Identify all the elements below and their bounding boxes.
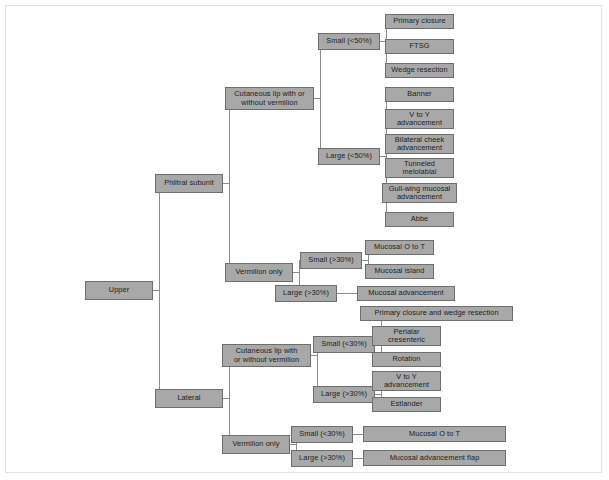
node-mucosal-o-to-t-1: Mucosal O to T [365,240,434,255]
node-bilat-cheek: Bilateral cheek advancement [385,134,454,154]
node-mucosal-adv: Mucosal advancement [357,286,455,301]
node-tunneled-melo: Tunneled melolabial [385,158,454,178]
diagram-canvas: UpperPhiltral subunitLateralCutaneous li… [0,0,609,480]
node-rotation: Rotation [372,352,441,367]
node-estlander: Estlander [372,397,441,412]
node-p-cut: Cutaneous lip with or without vermilion [225,87,314,110]
node-l-cut-large: Large (>30%) [313,386,375,403]
node-mucosal-o-to-t-2: Mucosal O to T [363,426,506,442]
node-l-verm-small: Small (<30%) [291,426,353,443]
node-mucosal-island: Mucosal island [365,264,434,279]
node-p-cut-large: Large (<50%) [318,148,380,165]
node-upper: Upper [85,281,153,300]
node-philtral: Philtral subunit [155,174,223,193]
node-primary-closure: Primary closure [385,14,454,29]
node-p-verm-large: Large (>30%) [275,285,337,302]
node-gull-wing: Gull-wing mucosal advancement [382,183,457,203]
node-l-verm-large: Large (>30%) [291,450,353,467]
node-p-cut-small: Small (<50%) [318,33,380,50]
node-abbe: Abbe [385,212,454,227]
node-lateral: Lateral [155,389,223,408]
node-l-verm: Vermilion only [222,435,290,454]
node-wedge-resection: Wedge resection [385,63,454,78]
node-v-to-y-1: V to Y advancement [385,109,454,129]
node-primary-wedge: Primary closure and wedge resection [360,306,513,321]
node-perialar: Perialar cresenteric [372,326,441,346]
node-l-cut-small: Small (<30%) [313,336,375,353]
node-mucosal-adv-flap: Mucosal advancement flap [363,450,506,466]
node-v-to-y-2: V to Y advancement [372,371,441,391]
node-p-verm-small: Small (>30%) [300,252,362,269]
node-p-verm: Vermilion only [225,263,293,282]
node-l-cut: Cutaneous lip with or without vermilion [222,344,311,367]
node-ftsg: FTSG [385,39,454,54]
node-banner: Banner [385,87,454,102]
diagram-frame [5,5,602,473]
